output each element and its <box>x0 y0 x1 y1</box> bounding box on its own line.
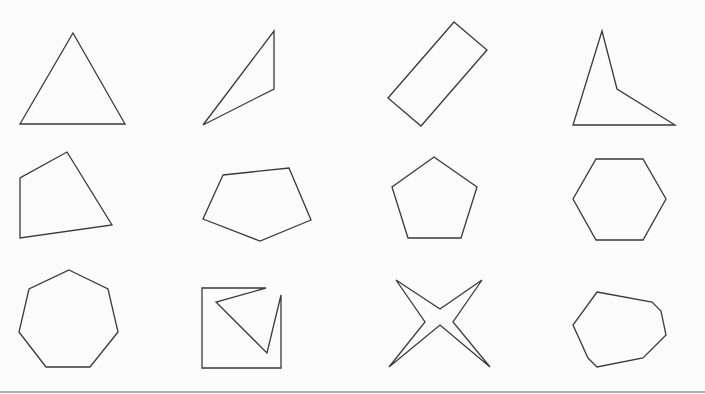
equilateral-triangle <box>20 33 125 124</box>
concave-heptagon <box>202 288 281 368</box>
regular-heptagon <box>19 270 118 367</box>
irregular-octagon <box>573 292 666 367</box>
concave-quadrilateral <box>573 31 675 125</box>
regular-pentagon <box>392 157 477 238</box>
rotated-rectangle <box>388 22 487 126</box>
irregular-pentagon <box>203 168 311 241</box>
obtuse-triangle <box>203 31 274 125</box>
shapes-svg <box>0 0 705 394</box>
four-point-star <box>389 280 490 367</box>
shapes-figure <box>0 0 705 394</box>
irregular-quadrilateral <box>20 152 112 238</box>
regular-hexagon <box>573 159 666 240</box>
